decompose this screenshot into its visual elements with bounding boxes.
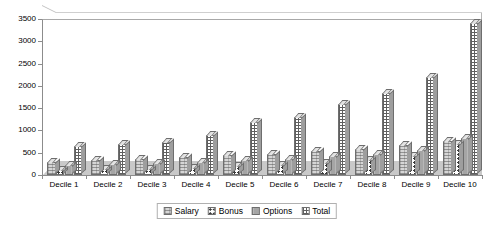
legend-item-label: Options bbox=[263, 206, 292, 216]
x-axis-tick-mark bbox=[394, 175, 395, 179]
bar-side-face bbox=[301, 114, 306, 174]
column-chart: 0500100015002000250030003500 Decile 1Dec… bbox=[0, 0, 494, 230]
x-axis-tick-label: Decile 8 bbox=[350, 180, 394, 189]
bar-side-face bbox=[319, 148, 324, 174]
x-axis-tick-mark bbox=[350, 175, 351, 179]
bar-side-face bbox=[213, 131, 218, 174]
bar-cluster bbox=[135, 19, 170, 175]
legend-swatch-icon bbox=[208, 207, 216, 215]
y-axis-tick-label: 2500 bbox=[2, 60, 36, 68]
chart-legend: SalaryBonusOptionsTotal bbox=[157, 203, 337, 219]
legend-item-total[interactable]: Total bbox=[301, 206, 330, 216]
legend-item-salary[interactable]: Salary bbox=[164, 206, 199, 216]
legend-item-options[interactable]: Options bbox=[252, 206, 292, 216]
bar-side-face bbox=[363, 145, 368, 174]
bar-salary bbox=[223, 155, 231, 175]
bar-cluster bbox=[223, 19, 258, 175]
legend-item-label: Salary bbox=[175, 206, 199, 216]
y-axis-tick-label: 0 bbox=[2, 171, 36, 179]
x-axis-tick-label: Decile 2 bbox=[86, 180, 130, 189]
y-axis-tick-label: 1000 bbox=[2, 126, 36, 134]
x-axis-tick-mark bbox=[42, 175, 43, 179]
bar-side-face bbox=[257, 118, 262, 174]
x-axis-tick-label: Decile 10 bbox=[438, 180, 482, 189]
bar-side-face bbox=[477, 20, 482, 174]
bar-cluster bbox=[311, 19, 346, 175]
bar-side-face bbox=[451, 138, 456, 174]
x-axis-tick-label: Decile 5 bbox=[218, 180, 262, 189]
bar-salary bbox=[267, 154, 275, 175]
y-axis-tick-label: 3000 bbox=[2, 37, 36, 45]
bar-side-face bbox=[275, 150, 280, 174]
bar-side-face bbox=[169, 138, 174, 174]
y-axis-tick-label: 1500 bbox=[2, 104, 36, 112]
bar-cluster bbox=[47, 19, 82, 175]
x-axis-tick-label: Decile 9 bbox=[394, 180, 438, 189]
x-axis-tick-label: Decile 1 bbox=[42, 180, 86, 189]
bar-salary bbox=[47, 162, 55, 175]
bar-cluster bbox=[399, 19, 434, 175]
x-axis-tick-mark bbox=[306, 175, 307, 179]
legend-item-label: Total bbox=[312, 206, 330, 216]
bar-salary bbox=[91, 160, 99, 175]
x-axis-tick-label: Decile 6 bbox=[262, 180, 306, 189]
bar-salary bbox=[135, 159, 143, 175]
bar-salary bbox=[355, 149, 363, 175]
legend-item-label: Bonus bbox=[219, 206, 243, 216]
legend-item-bonus[interactable]: Bonus bbox=[208, 206, 243, 216]
x-axis-tick-mark bbox=[262, 175, 263, 179]
bar-salary bbox=[311, 151, 319, 175]
x-axis-tick-label: Decile 7 bbox=[306, 180, 350, 189]
legend-swatch-icon bbox=[252, 207, 260, 215]
bar-side-face bbox=[389, 89, 394, 174]
x-axis-tick-mark bbox=[438, 175, 439, 179]
x-axis-tick-mark bbox=[86, 175, 87, 179]
bar-side-face bbox=[125, 140, 130, 174]
gridline bbox=[56, 12, 482, 13]
x-axis-tick-label: Decile 4 bbox=[174, 180, 218, 189]
bar-side-face bbox=[459, 140, 464, 174]
bar-cluster bbox=[179, 19, 214, 175]
y-axis-tick-label: 2000 bbox=[2, 82, 36, 90]
x-axis-tick-label: Decile 3 bbox=[130, 180, 174, 189]
bar-side-face bbox=[468, 135, 473, 174]
plot-area bbox=[42, 19, 482, 175]
x-axis-tick-mark bbox=[174, 175, 175, 179]
y-axis-tick-label: 500 bbox=[2, 149, 36, 157]
y-axis-tick-label: 3500 bbox=[2, 15, 36, 23]
bar-cluster bbox=[355, 19, 390, 175]
x-axis-tick-mark bbox=[482, 175, 483, 179]
bar-cluster bbox=[443, 19, 478, 175]
bar-cluster bbox=[91, 19, 126, 175]
bar-side-face bbox=[345, 100, 350, 174]
bar-cluster bbox=[267, 19, 302, 175]
bar-salary bbox=[179, 157, 187, 175]
x-axis-tick-mark bbox=[218, 175, 219, 179]
bar-salary bbox=[443, 141, 451, 175]
x-axis-tick-mark bbox=[130, 175, 131, 179]
bar-side-face bbox=[407, 141, 412, 174]
bar-side-face bbox=[424, 147, 429, 174]
bar-side-face bbox=[81, 143, 86, 174]
legend-swatch-icon bbox=[164, 207, 172, 215]
legend-swatch-icon bbox=[301, 207, 309, 215]
bar-salary bbox=[399, 145, 407, 175]
bar-side-face bbox=[433, 73, 438, 174]
